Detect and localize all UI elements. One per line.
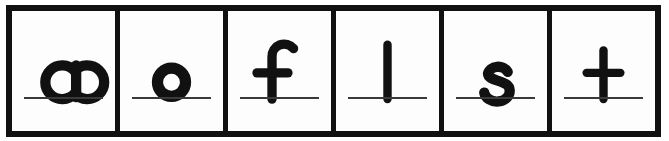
letter-cell-o[interactable]: o	[120, 11, 228, 131]
letter-card-canvas: a o f	[0, 0, 669, 141]
letter-glyph-a	[12, 11, 115, 131]
baseline-rule	[456, 97, 534, 99]
letter-glyph-s	[444, 11, 547, 131]
letter-cell-a[interactable]: a	[12, 11, 120, 131]
letter-glyph-o	[120, 11, 223, 131]
letter-strip: a o f	[6, 5, 661, 137]
baseline-rule	[132, 97, 210, 99]
baseline-rule	[564, 97, 642, 99]
letter-glyph-l	[336, 11, 439, 131]
letter-cell-f[interactable]: f	[228, 11, 336, 131]
letter-cell-l[interactable]: l	[336, 11, 444, 131]
baseline-rule	[24, 97, 102, 99]
letter-cell-t[interactable]: t	[552, 11, 655, 131]
letter-glyph-f	[228, 11, 331, 131]
baseline-rule	[348, 97, 426, 99]
letter-cell-s[interactable]: s	[444, 11, 552, 131]
baseline-rule	[240, 97, 318, 99]
letter-glyph-t	[552, 11, 655, 131]
